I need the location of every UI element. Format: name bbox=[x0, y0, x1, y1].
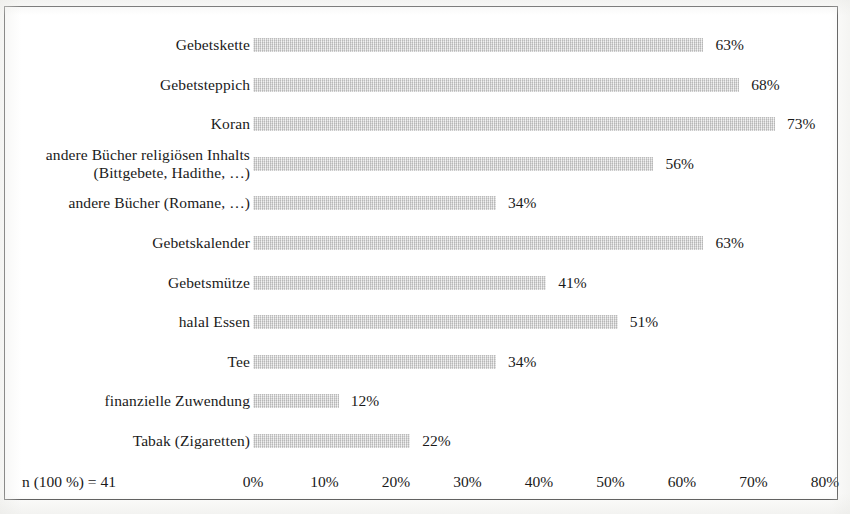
bar bbox=[253, 276, 546, 290]
bar-value-label: 68% bbox=[751, 76, 779, 94]
bar-value-label: 34% bbox=[508, 194, 536, 212]
bar-value-label: 73% bbox=[787, 115, 815, 133]
category-label-line: andere Bücher (Romane, …) bbox=[10, 194, 250, 211]
bar-row: Koran73% bbox=[5, 104, 839, 144]
bar-value-label: 41% bbox=[558, 274, 586, 292]
bar bbox=[253, 117, 775, 131]
x-tick-label: 10% bbox=[310, 473, 338, 491]
bar bbox=[253, 355, 496, 369]
x-axis-tick-labels: 0%10%20%30%40%50%60%70%80% bbox=[5, 473, 839, 501]
bar bbox=[253, 434, 410, 448]
bar-row: Tee34% bbox=[5, 342, 839, 382]
category-label: Gebetskalender bbox=[10, 234, 250, 251]
x-tick-label: 20% bbox=[382, 473, 410, 491]
x-tick-label: 40% bbox=[525, 473, 553, 491]
x-tick-label: 80% bbox=[811, 473, 839, 491]
bar-track bbox=[253, 117, 775, 131]
category-label-line: Tee bbox=[10, 353, 250, 370]
bar-row: andere Bücher (Romane, …)34% bbox=[5, 183, 839, 223]
x-tick-label: 70% bbox=[739, 473, 767, 491]
bar-track bbox=[253, 355, 496, 369]
category-label-line: Tabak (Zigaretten) bbox=[10, 432, 250, 449]
bar bbox=[253, 38, 703, 52]
x-tick-label: 30% bbox=[453, 473, 481, 491]
bar-row: Gebetsmütze41% bbox=[5, 263, 839, 303]
bar-track bbox=[253, 78, 739, 92]
category-label-line: Gebetsmütze bbox=[10, 274, 250, 291]
bar-value-label: 63% bbox=[715, 234, 743, 252]
category-label-line: Koran bbox=[10, 115, 250, 132]
bar-track bbox=[253, 157, 653, 171]
category-label: Tabak (Zigaretten) bbox=[10, 432, 250, 449]
bar-track bbox=[253, 315, 618, 329]
bar-row: andere Bücher religiösen Inhalts(Bittgeb… bbox=[5, 144, 839, 184]
x-tick-label: 60% bbox=[668, 473, 696, 491]
category-label: Tee bbox=[10, 353, 250, 370]
bar-value-label: 22% bbox=[422, 432, 450, 450]
bar bbox=[253, 196, 496, 210]
bar-value-label: 34% bbox=[508, 353, 536, 371]
bar-row: halal Essen51% bbox=[5, 302, 839, 342]
x-tick-label: 50% bbox=[596, 473, 624, 491]
bar bbox=[253, 315, 618, 329]
bar bbox=[253, 236, 703, 250]
category-label: Gebetsmütze bbox=[10, 274, 250, 291]
category-label: Gebetsteppich bbox=[10, 76, 250, 93]
plot-region: Gebetskette63%Gebetsteppich68%Koran73%an… bbox=[5, 7, 839, 501]
category-label-line: Gebetsteppich bbox=[10, 76, 250, 93]
bar-track bbox=[253, 276, 546, 290]
chart-frame: Gebetskette63%Gebetsteppich68%Koran73%an… bbox=[4, 6, 838, 500]
bar-row: Tabak (Zigaretten)22% bbox=[5, 421, 839, 461]
category-label-line: finanzielle Zuwendung bbox=[10, 392, 250, 409]
category-label-line: andere Bücher religiösen Inhalts bbox=[10, 146, 250, 164]
bar-row: Gebetskalender63% bbox=[5, 223, 839, 263]
sample-size-note: n (100 %) = 41 bbox=[22, 473, 116, 491]
bar-row: finanzielle Zuwendung12% bbox=[5, 381, 839, 421]
category-label-line: (Bittgebete, Hadithe, …) bbox=[10, 164, 250, 182]
category-label: andere Bücher religiösen Inhalts(Bittgeb… bbox=[10, 146, 250, 182]
bar bbox=[253, 394, 339, 408]
bar-value-label: 63% bbox=[715, 36, 743, 54]
bar-value-label: 51% bbox=[630, 313, 658, 331]
bar-row: Gebetsteppich68% bbox=[5, 65, 839, 105]
bar-track bbox=[253, 38, 703, 52]
bar-row: Gebetskette63% bbox=[5, 25, 839, 65]
bar bbox=[253, 78, 739, 92]
bar-track bbox=[253, 394, 339, 408]
bar-track bbox=[253, 434, 410, 448]
category-label: Koran bbox=[10, 115, 250, 132]
category-label: andere Bücher (Romane, …) bbox=[10, 194, 250, 211]
category-label: finanzielle Zuwendung bbox=[10, 392, 250, 409]
category-label-line: Gebetskalender bbox=[10, 234, 250, 251]
category-label: halal Essen bbox=[10, 313, 250, 330]
category-label: Gebetskette bbox=[10, 36, 250, 53]
bar-track bbox=[253, 236, 703, 250]
bar-value-label: 56% bbox=[665, 155, 693, 173]
category-label-line: halal Essen bbox=[10, 313, 250, 330]
figure-container: Gebetskette63%Gebetsteppich68%Koran73%an… bbox=[0, 0, 850, 514]
bar-track bbox=[253, 196, 496, 210]
category-label-line: Gebetskette bbox=[10, 36, 250, 53]
bar bbox=[253, 157, 653, 171]
x-tick-label: 0% bbox=[243, 473, 264, 491]
bar-value-label: 12% bbox=[351, 392, 379, 410]
